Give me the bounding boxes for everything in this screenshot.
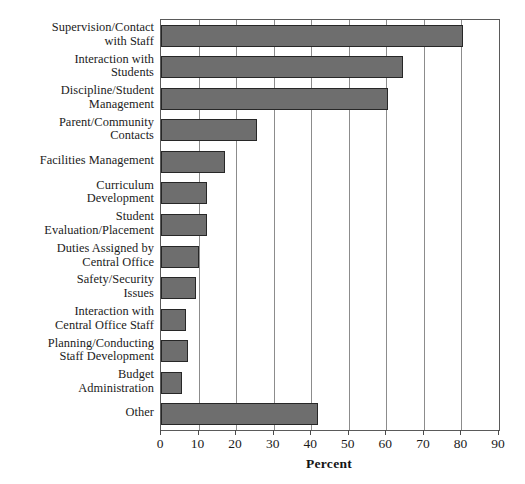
x-tick-label: 70	[403, 436, 443, 452]
category-label-line: Contacts	[2, 129, 154, 143]
gridline-40	[311, 20, 312, 430]
x-tick-label: 80	[440, 436, 480, 452]
category-label-line: Student	[2, 210, 154, 224]
category-label: Facilities Management	[2, 154, 154, 168]
x-tick-30	[273, 430, 274, 435]
category-label: Discipline/StudentManagement	[2, 84, 154, 111]
category-label-line: Discipline/Student	[2, 84, 154, 98]
category-label: Planning/ConductingStaff Development	[2, 337, 154, 364]
bar	[161, 88, 388, 110]
category-label: Duties Assigned byCentral Office	[2, 242, 154, 269]
bar	[161, 182, 207, 204]
x-tick-label: 20	[215, 436, 255, 452]
category-label: BudgetAdministration	[2, 368, 154, 395]
x-tick-50	[348, 430, 349, 435]
caption-remnant	[36, 478, 496, 484]
bar	[161, 119, 257, 141]
gridline-80	[461, 20, 462, 430]
category-label-line: Interaction with	[2, 305, 154, 319]
category-label-line: Management	[2, 98, 154, 112]
bar	[161, 56, 403, 78]
x-tick-label: 0	[140, 436, 180, 452]
gridline-70	[424, 20, 425, 430]
category-label-column: Supervision/Contactwith StaffInteraction…	[0, 19, 158, 429]
category-label-line: Duties Assigned by	[2, 242, 154, 256]
x-tick-0	[160, 430, 161, 435]
x-tick-label: 60	[365, 436, 405, 452]
category-label: StudentEvaluation/Placement	[2, 210, 154, 237]
x-tick-label: 30	[253, 436, 293, 452]
gridline-60	[386, 20, 387, 430]
category-label-line: Central Office Staff	[2, 319, 154, 333]
x-tick-90	[498, 430, 499, 435]
gridline-20	[236, 20, 237, 430]
category-label-line: with Staff	[2, 35, 154, 49]
category-label-line: Students	[2, 66, 154, 80]
x-tick-label: 10	[178, 436, 218, 452]
bar	[161, 340, 188, 362]
category-label: Safety/SecurityIssues	[2, 273, 154, 300]
category-label: Parent/CommunityContacts	[2, 116, 154, 143]
bar	[161, 403, 318, 425]
plot-area	[160, 19, 500, 431]
x-tick-80	[460, 430, 461, 435]
x-axis-title: Percent	[160, 456, 498, 472]
category-label-line: Safety/Security	[2, 273, 154, 287]
x-tick-70	[423, 430, 424, 435]
bar	[161, 25, 463, 47]
category-label: CurriculumDevelopment	[2, 179, 154, 206]
x-tick-60	[385, 430, 386, 435]
category-label-line: Interaction with	[2, 53, 154, 67]
x-tick-40	[310, 430, 311, 435]
category-label-line: Parent/Community	[2, 116, 154, 130]
category-label-line: Other	[2, 406, 154, 420]
category-label-line: Central Office	[2, 256, 154, 270]
category-label-line: Evaluation/Placement	[2, 224, 154, 238]
x-tick-20	[235, 430, 236, 435]
bar	[161, 309, 186, 331]
category-label: Interaction withCentral Office Staff	[2, 305, 154, 332]
category-label-line: Planning/Conducting	[2, 337, 154, 351]
bar	[161, 372, 182, 394]
category-label: Other	[2, 406, 154, 420]
gridline-50	[349, 20, 350, 430]
bar	[161, 214, 207, 236]
category-label: Interaction withStudents	[2, 53, 154, 80]
x-tick-label: 50	[328, 436, 368, 452]
x-tick-label: 90	[478, 436, 518, 452]
bar-chart-figure: Supervision/Contactwith StaffInteraction…	[0, 0, 525, 484]
category-label-line: Administration	[2, 382, 154, 396]
category-label-line: Staff Development	[2, 350, 154, 364]
category-label-line: Development	[2, 192, 154, 206]
category-label-line: Facilities Management	[2, 154, 154, 168]
category-label-line: Budget	[2, 368, 154, 382]
gridline-30	[274, 20, 275, 430]
bar	[161, 277, 196, 299]
bar	[161, 151, 225, 173]
category-label: Supervision/Contactwith Staff	[2, 21, 154, 48]
category-label-line: Issues	[2, 287, 154, 301]
category-label-line: Curriculum	[2, 179, 154, 193]
x-tick-label: 40	[290, 436, 330, 452]
bar	[161, 246, 199, 268]
x-tick-10	[198, 430, 199, 435]
category-label-line: Supervision/Contact	[2, 21, 154, 35]
